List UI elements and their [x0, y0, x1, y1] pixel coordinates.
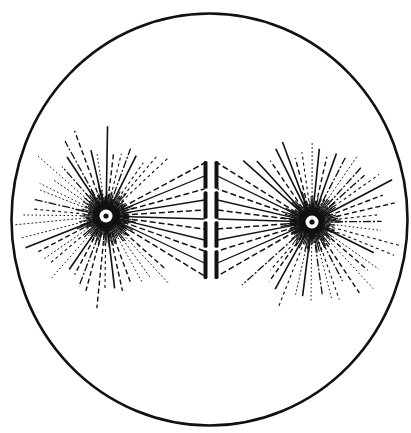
- chromosome: [215, 161, 219, 189]
- mitosis-diagram: [0, 0, 411, 433]
- chromosome: [204, 250, 208, 279]
- chromosome: [204, 161, 208, 189]
- chromosome: [204, 221, 208, 248]
- aster-rays: [14, 126, 402, 308]
- chromosome: [215, 191, 219, 219]
- chromosome: [215, 250, 219, 279]
- aster-ray: [269, 229, 307, 281]
- cell-membrane: [12, 14, 408, 426]
- chromosome: [215, 221, 219, 248]
- chromosome-plates: [204, 161, 219, 279]
- diagram-canvas: [0, 0, 411, 433]
- spindle-fibers: [114, 163, 304, 276]
- aster-ray: [270, 161, 307, 215]
- kinetochore-fiber-right: [218, 225, 305, 263]
- centriole-dot: [309, 219, 314, 224]
- aster-ray: [242, 228, 305, 285]
- kinetochore-fiber-left: [114, 163, 205, 212]
- centriole-dot: [103, 213, 108, 218]
- chromosome: [204, 191, 208, 219]
- kinetochore-fiber-right: [218, 163, 305, 217]
- aster-ray: [318, 229, 374, 290]
